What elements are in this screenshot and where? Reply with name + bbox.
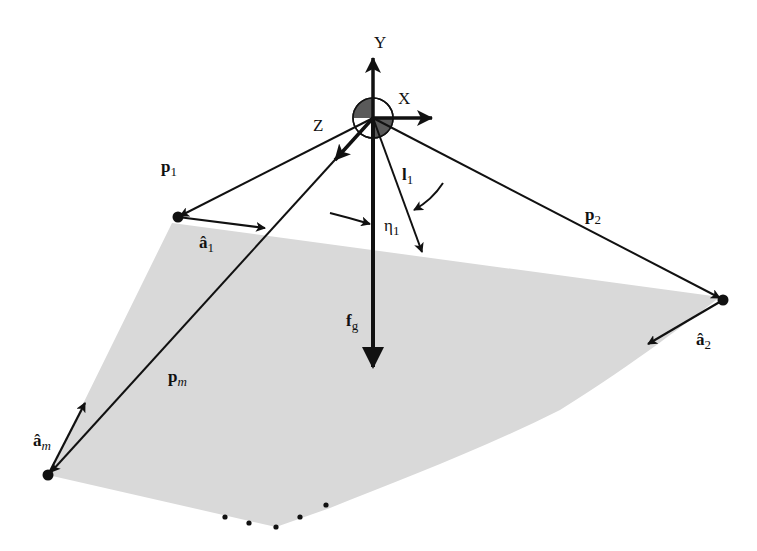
contact-point-2: [718, 295, 729, 306]
label-p1: p1: [161, 157, 177, 179]
angle-arrow-left: [330, 213, 370, 224]
contact-point-1: [173, 212, 184, 223]
contact-plate-polygon: [48, 223, 720, 527]
angle-arrow-right: [414, 183, 443, 210]
label-eta1: η1: [384, 216, 399, 238]
z-axis-label: Z: [313, 116, 323, 135]
label-a2: â2: [696, 330, 711, 352]
y-axis-label: Y: [374, 33, 386, 52]
label-l1: l1: [402, 165, 413, 187]
label-p2: p2: [585, 205, 601, 227]
vector-p1: [180, 118, 373, 216]
label-am: âm: [33, 431, 51, 453]
contact-point-m: [43, 470, 54, 481]
diagram-canvas: Y X Z p1 p2 pm l1 fg â1 â2 âm η1: [0, 0, 757, 551]
x-axis-label: X: [398, 89, 410, 108]
